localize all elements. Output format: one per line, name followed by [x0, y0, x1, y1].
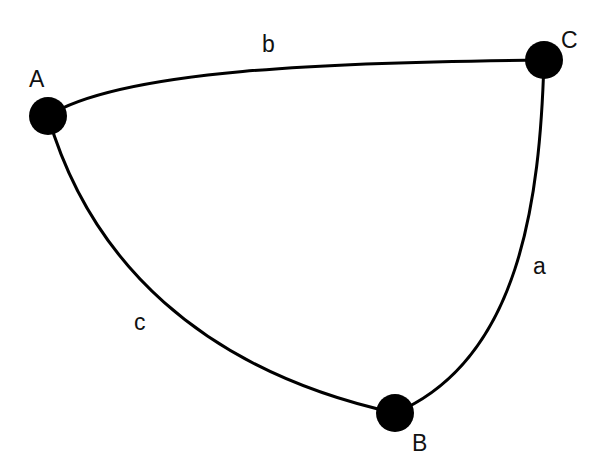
vertex-b [376, 394, 414, 432]
vertex-c [525, 41, 563, 79]
vertex-label-b: B [412, 430, 427, 456]
vertex-label-a: A [29, 66, 45, 92]
edge-label-a: a [533, 253, 546, 279]
spherical-triangle-diagram: A B C b a c [0, 0, 611, 476]
edge-a [395, 60, 544, 413]
edge-label-b: b [262, 31, 275, 57]
vertex-label-c: C [561, 27, 578, 53]
edge-c [48, 116, 395, 413]
vertex-a [29, 97, 67, 135]
edge-b [48, 60, 544, 116]
edge-label-c: c [134, 309, 146, 335]
